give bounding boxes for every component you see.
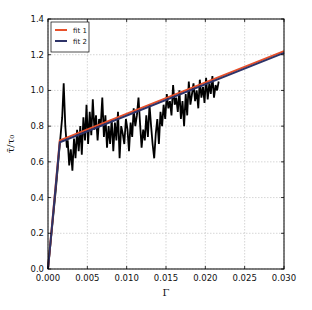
x-tick-label: 0.000 xyxy=(36,273,60,283)
legend-label: fit 2 xyxy=(73,38,87,46)
x-tick-label: 0.005 xyxy=(75,273,99,283)
y-tick-label: 0.8 xyxy=(30,121,44,131)
legend-label: fit 1 xyxy=(73,27,87,35)
x-tick-label: 0.025 xyxy=(232,273,256,283)
y-axis-label: τ̄/τ₀ xyxy=(5,135,16,153)
series-data xyxy=(48,76,219,269)
y-tick-label: 1.4 xyxy=(30,14,44,24)
y-tick-label: 0.2 xyxy=(30,228,44,238)
y-tick-label: 1.2 xyxy=(30,50,44,60)
y-tick-label: 1.0 xyxy=(30,85,44,95)
y-tick-label: 0.0 xyxy=(30,264,44,274)
y-tick-label: 0.6 xyxy=(30,157,44,167)
grid-lines xyxy=(48,19,284,269)
y-tick-label: 0.4 xyxy=(30,193,44,203)
x-tick-label: 0.010 xyxy=(114,273,138,283)
x-tick-label: 0.030 xyxy=(272,273,296,283)
x-axis-label: Γ xyxy=(163,287,170,298)
legend: fit 1fit 2 xyxy=(51,22,89,52)
x-tick-label: 0.020 xyxy=(193,273,217,283)
chart: 0.0000.0050.0100.0150.0200.0250.030 0.00… xyxy=(0,0,312,310)
x-tick-label: 0.015 xyxy=(154,273,178,283)
